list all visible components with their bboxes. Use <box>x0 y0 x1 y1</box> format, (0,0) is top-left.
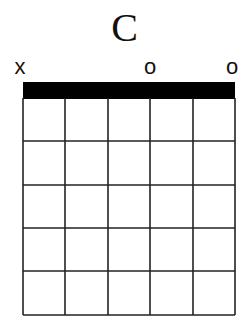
fretboard-grid <box>0 0 249 330</box>
nut <box>23 82 235 99</box>
strings <box>23 98 235 315</box>
frets <box>23 141 235 315</box>
